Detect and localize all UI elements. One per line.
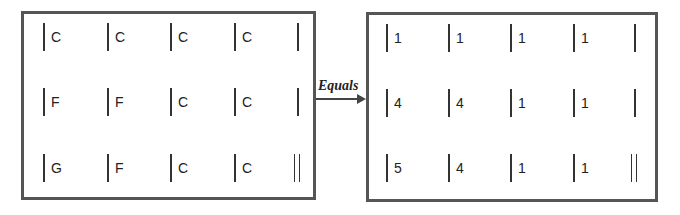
barline	[573, 89, 575, 117]
chord-symbol: 4	[456, 96, 464, 110]
chord-number-grid: 111144115411	[366, 12, 658, 202]
barline	[107, 88, 109, 116]
barline	[510, 24, 512, 52]
barline	[386, 154, 388, 182]
chord-symbol: F	[115, 95, 124, 109]
end-barline	[297, 23, 299, 51]
end-barline	[634, 89, 636, 117]
chord-symbol: G	[51, 161, 62, 175]
chord-symbol: C	[51, 30, 61, 44]
barline	[43, 88, 45, 116]
barline	[170, 88, 172, 116]
chord-symbol: 1	[518, 161, 526, 175]
barline	[448, 24, 450, 52]
barline	[107, 154, 109, 182]
barline	[43, 23, 45, 51]
chord-symbol: C	[242, 95, 252, 109]
chord-symbol: C	[178, 95, 188, 109]
barline	[573, 24, 575, 52]
chord-symbol: C	[178, 30, 188, 44]
barline	[573, 154, 575, 182]
chord-symbol: 1	[581, 96, 589, 110]
barline	[170, 23, 172, 51]
chord-symbol: C	[115, 30, 125, 44]
chord-symbol: C	[178, 161, 188, 175]
barline	[170, 154, 172, 182]
end-barline	[634, 24, 636, 52]
chord-symbol: 1	[581, 161, 589, 175]
barline	[448, 89, 450, 117]
chord-symbol: F	[115, 161, 124, 175]
chord-symbol: C	[242, 161, 252, 175]
barline	[43, 154, 45, 182]
barline	[510, 89, 512, 117]
barline	[386, 89, 388, 117]
barline	[448, 154, 450, 182]
barline	[386, 24, 388, 52]
chord-symbol: 1	[518, 96, 526, 110]
end-barline	[297, 88, 299, 116]
barline	[234, 154, 236, 182]
barline	[510, 154, 512, 182]
chord-symbol: C	[242, 30, 252, 44]
chord-letter-grid: CCCCFFCCGFCC	[21, 11, 316, 200]
chord-symbol: 1	[456, 31, 464, 45]
chord-symbol: F	[51, 95, 60, 109]
arrow-line	[316, 98, 360, 100]
arrow-head-icon	[357, 94, 366, 104]
barline	[107, 23, 109, 51]
chord-symbol: 5	[394, 161, 402, 175]
barline	[234, 23, 236, 51]
chord-symbol: 4	[456, 161, 464, 175]
final-double-barline	[294, 154, 300, 182]
chord-symbol: 1	[581, 31, 589, 45]
equals-label: Equals	[318, 78, 358, 94]
chord-symbol: 4	[394, 96, 402, 110]
chord-symbol: 1	[518, 31, 526, 45]
final-double-barline	[631, 154, 637, 182]
barline	[234, 88, 236, 116]
chord-symbol: 1	[394, 31, 402, 45]
